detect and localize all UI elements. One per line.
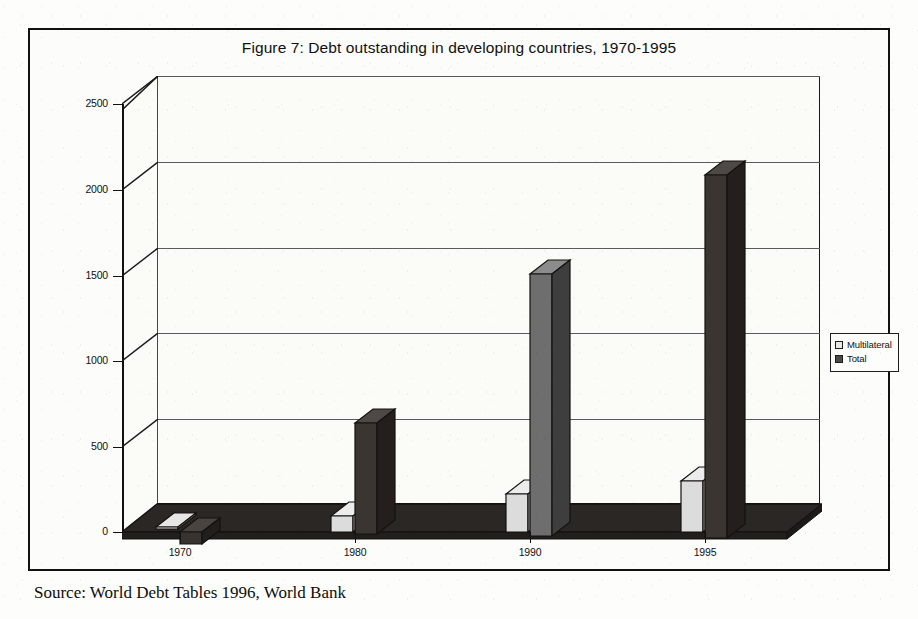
y-tick-0: [113, 532, 123, 533]
y-axis-label-2500: 2500: [62, 97, 108, 109]
tick-connector-500: [122, 419, 158, 448]
x-axis-label-1980: 1980: [325, 546, 385, 558]
x-tick-1990: [530, 532, 531, 543]
x-axis-label-1970: 1970: [150, 546, 210, 558]
y-axis-label-0: 0: [62, 525, 108, 537]
y-tick-2000: [113, 190, 123, 191]
y-tick-2500: [113, 104, 123, 105]
x-tick-1995: [705, 532, 706, 543]
y-axis-label-1500: 1500: [62, 269, 108, 281]
x-tick-1970: [180, 532, 181, 543]
legend-item-multilateral[interactable]: Multilateral: [835, 338, 892, 351]
y-axis-label-2000: 2000: [62, 183, 108, 195]
bar-total-1970[interactable]: [180, 483, 240, 541]
y-axis-label-500: 500: [62, 440, 108, 452]
bar-total-1980[interactable]: [355, 382, 415, 542]
x-axis-label-1990: 1990: [500, 546, 560, 558]
legend-item-total[interactable]: Total: [835, 352, 892, 365]
chart-legend: Multilateral Total: [830, 333, 899, 372]
chart-left-wall: [122, 76, 158, 538]
legend-swatch-icon: [835, 355, 843, 363]
bar-total-1990[interactable]: [530, 233, 590, 545]
tick-connector-2500: [122, 76, 158, 105]
figure-frame: Figure 7: Debt outstanding in developing…: [28, 28, 890, 571]
y-tick-1000: [113, 361, 123, 362]
legend-swatch-icon: [835, 341, 843, 349]
chart-title: Figure 7: Debt outstanding in developing…: [30, 39, 888, 57]
tick-connector-1500: [122, 248, 158, 277]
x-axis-label-1995: 1995: [675, 546, 735, 558]
x-tick-1980: [355, 532, 356, 543]
source-caption: Source: World Debt Tables 1996, World Ba…: [34, 583, 346, 603]
tick-connector-1000: [122, 333, 158, 362]
gridline-2500: [157, 76, 820, 77]
legend-label-total: Total: [847, 353, 867, 364]
y-tick-500: [113, 447, 123, 448]
bar-total-1995[interactable]: [705, 134, 765, 546]
y-tick-1500: [113, 276, 123, 277]
legend-label-multilateral: Multilateral: [847, 339, 892, 350]
plot-area: 2500 2000 1500 1000 500 0: [60, 70, 860, 565]
tick-connector-2000: [122, 162, 158, 191]
y-axis-label-1000: 1000: [62, 354, 108, 366]
